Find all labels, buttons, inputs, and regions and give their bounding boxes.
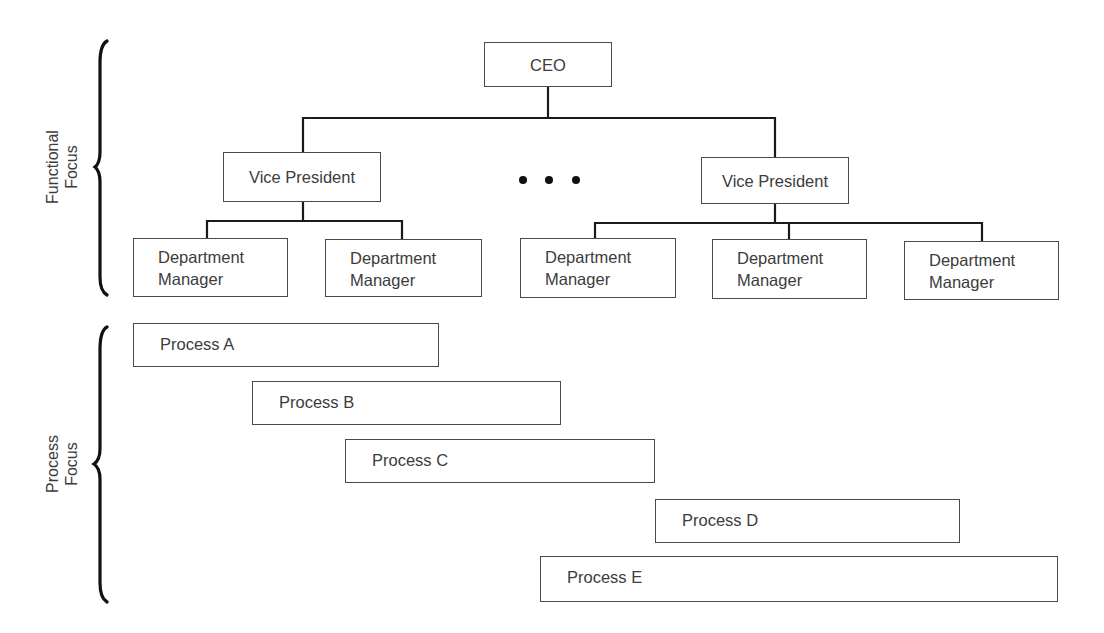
process-box-d: Process D bbox=[655, 499, 960, 543]
process-box-b: Process B bbox=[252, 381, 561, 425]
ceo-box: CEO bbox=[484, 42, 612, 87]
vice-president-label: Vice President bbox=[249, 166, 355, 188]
dot-icon bbox=[572, 176, 580, 184]
dot-icon bbox=[545, 176, 553, 184]
dot-icon bbox=[519, 176, 527, 184]
vice-president-box-left: Vice President bbox=[223, 152, 381, 202]
vice-president-label: Vice President bbox=[722, 170, 828, 192]
department-manager-box: Department Manager bbox=[520, 238, 676, 298]
process-focus-label: Process Focus bbox=[43, 414, 81, 514]
vice-president-box-right: Vice President bbox=[701, 157, 849, 204]
process-brace-icon bbox=[94, 327, 107, 602]
diagram-canvas: Functional Focus Process Focus CEO Vice … bbox=[0, 0, 1104, 633]
department-manager-box: Department Manager bbox=[904, 241, 1059, 300]
department-manager-box: Department Manager bbox=[325, 239, 482, 297]
process-box-c: Process C bbox=[345, 439, 655, 483]
department-manager-box: Department Manager bbox=[712, 239, 867, 299]
department-manager-box: Department Manager bbox=[133, 238, 288, 297]
process-box-e: Process E bbox=[540, 556, 1058, 602]
process-box-a: Process A bbox=[133, 323, 439, 367]
ceo-label: CEO bbox=[530, 54, 566, 76]
functional-brace-icon bbox=[95, 41, 107, 295]
functional-focus-label: Functional Focus bbox=[43, 117, 81, 217]
